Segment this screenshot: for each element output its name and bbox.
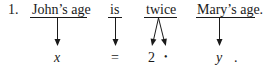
symbol-y: y: [216, 51, 222, 65]
mapping-arrows: [0, 0, 272, 73]
symbol-x: x: [54, 51, 60, 65]
symbol-times-dot: •: [164, 50, 168, 64]
symbol-equals: =: [111, 51, 119, 65]
arrow-icon: [55, 18, 223, 46]
symbol-two: 2: [148, 51, 155, 65]
symbol-period: .: [234, 51, 238, 65]
